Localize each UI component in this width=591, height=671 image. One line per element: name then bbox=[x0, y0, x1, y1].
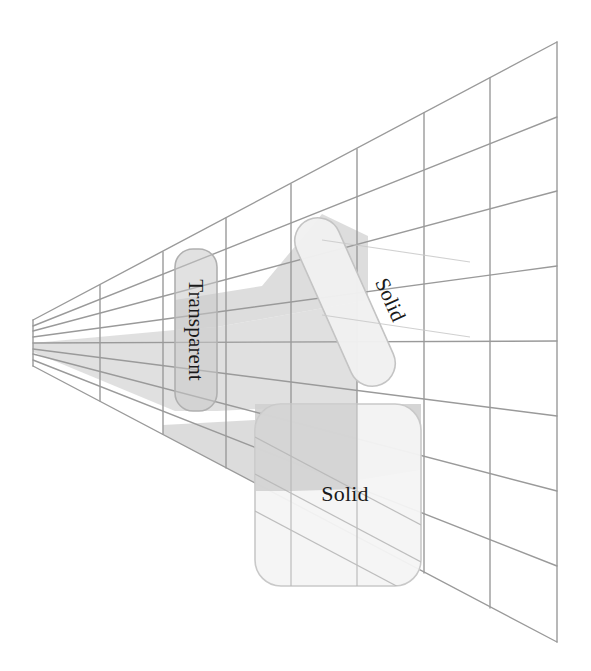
solid-box-shadow-left bbox=[163, 420, 255, 491]
transparent-box[interactable] bbox=[175, 249, 217, 411]
figure-canvas: Transparent Solid Solid bbox=[0, 0, 591, 671]
perspective-illustration bbox=[0, 0, 591, 671]
solid-box-inner-shadow bbox=[255, 404, 357, 491]
